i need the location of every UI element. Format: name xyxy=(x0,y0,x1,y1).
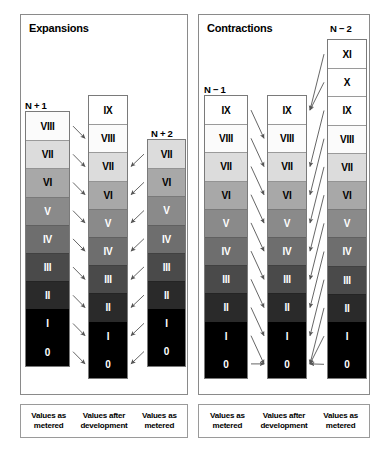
zone-cell: VI xyxy=(26,168,69,196)
zone-cell: VII xyxy=(205,152,247,180)
zone-cell: VI xyxy=(148,168,185,196)
zone-cell: II xyxy=(328,294,366,322)
zone-cell: III xyxy=(205,265,247,293)
column-n-minus-1: IXVIIIVIIVIVIVIIIIII0 xyxy=(204,95,248,379)
zone-cell: VI xyxy=(328,181,366,209)
zone-cell: VI xyxy=(205,181,247,209)
zone-cell: VII xyxy=(148,140,185,168)
zone-cell: II xyxy=(26,281,69,309)
column-n-plus-1: VIIIVIIVIVIVIIIIII0 xyxy=(25,111,70,367)
legend-item-values-after-development-left: Values after development xyxy=(256,411,313,431)
zone-cell: VIII xyxy=(205,124,247,152)
zone-cell: II xyxy=(89,293,127,321)
zone-cell: IV xyxy=(268,237,306,265)
zone-cell: II xyxy=(205,293,247,321)
zone-cell: IV xyxy=(148,225,185,253)
zone-cell: III xyxy=(148,253,185,281)
column-label-n-minus-1: N − 1 xyxy=(204,84,225,95)
column-label-n-minus-2: N − 2 xyxy=(330,23,351,34)
zone-cell: VIII xyxy=(89,124,127,152)
column-n-plus-2: VIIVIVIVIIIIII0 xyxy=(147,139,186,367)
zone-cell: V xyxy=(26,197,69,225)
zone-cell: VIII xyxy=(328,125,366,153)
zone-cell: 0 xyxy=(148,337,185,365)
zone-cell: VII xyxy=(268,152,306,180)
zone-cell: III xyxy=(26,253,69,281)
zone-cell: 0 xyxy=(89,350,127,378)
zone-cell: I xyxy=(26,309,69,337)
zone-cell: IV xyxy=(26,225,69,253)
zone-cell: IX xyxy=(268,96,306,124)
zone-cell: II xyxy=(268,293,306,321)
panel-title-expansions: Expansions xyxy=(29,22,89,34)
zone-cell: IV xyxy=(89,237,127,265)
legend-item-values-after-development-left: Values after development xyxy=(76,411,131,431)
zone-cell: VIII xyxy=(26,112,69,140)
zone-cell: V xyxy=(268,209,306,237)
zone-cell: IX xyxy=(89,96,127,124)
zone-cell: 0 xyxy=(328,350,366,378)
zone-cell: I xyxy=(268,322,306,350)
zone-cell: X xyxy=(328,68,366,96)
legend-item-values-as-metered-right: Values as metered xyxy=(312,411,369,431)
zone-cell: VIII xyxy=(268,124,306,152)
legend-expansions: Values as metered Values after developme… xyxy=(20,404,188,438)
zone-cell: V xyxy=(205,209,247,237)
zone-cell: I xyxy=(205,322,247,350)
legend-item-values-as-metered-right: Values as metered xyxy=(132,411,187,431)
zone-cell: VII xyxy=(26,140,69,168)
legend-item-values-as-metered-left: Values as metered xyxy=(199,411,256,431)
legend-contractions: Values as metered Values after developme… xyxy=(198,404,370,438)
zone-cell: II xyxy=(148,281,185,309)
column-contractions-developed: IXVIIIVIIVIVIVIIIIII0 xyxy=(267,95,307,379)
zone-cell: I xyxy=(89,322,127,350)
zone-cell: 0 xyxy=(205,350,247,378)
panel-title-contractions: Contractions xyxy=(207,22,272,34)
zone-cell: V xyxy=(148,196,185,224)
zone-cell: VI xyxy=(268,181,306,209)
zone-cell: III xyxy=(268,265,306,293)
zone-cell: VII xyxy=(328,153,366,181)
column-label-n-plus-2: N + 2 xyxy=(151,128,172,139)
legend-item-values-as-metered-left: Values as metered xyxy=(21,411,76,431)
zone-cell: III xyxy=(89,265,127,293)
zone-cell: XI xyxy=(328,40,366,68)
zone-cell: V xyxy=(89,209,127,237)
zone-cell: IV xyxy=(205,237,247,265)
zone-cell: IX xyxy=(328,96,366,124)
zone-cell: V xyxy=(328,209,366,237)
zone-cell: I xyxy=(148,309,185,337)
column-label-n-plus-1: N + 1 xyxy=(25,100,46,111)
column-expansions-developed: IXVIIIVIIVIVIVIIIIII0 xyxy=(88,95,128,379)
zone-cell: VI xyxy=(89,181,127,209)
zone-cell: III xyxy=(328,266,366,294)
zone-cell: I xyxy=(328,322,366,350)
zone-cell: IX xyxy=(205,96,247,124)
zone-cell: 0 xyxy=(268,350,306,378)
zone-cell: IV xyxy=(328,237,366,265)
column-n-minus-2: XIXIXVIIIVIIVIVIVIIIIII0 xyxy=(327,39,367,379)
zone-cell: VII xyxy=(89,152,127,180)
zone-cell: 0 xyxy=(26,338,69,366)
